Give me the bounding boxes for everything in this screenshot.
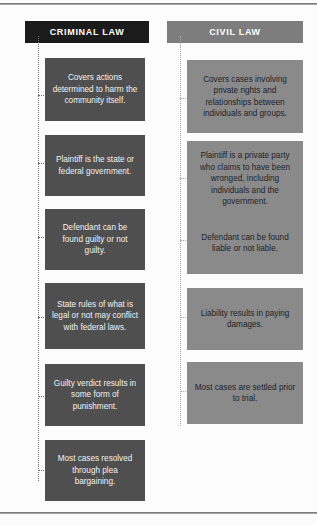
bottom-divider-rule [0, 512, 317, 514]
criminal-item-6: Most cases resolved through plea bargain… [45, 440, 145, 501]
connector-spine-criminal [38, 36, 39, 481]
civil-item-4: Liability results in paying damages. [187, 288, 303, 350]
criminal-item-5-text: Guilty verdict results in some form of p… [52, 378, 138, 413]
criminal-item-3: Defendant can be found guilty or not gui… [45, 209, 145, 270]
civil-item-5-text: Most cases are settled prior to trial. [194, 382, 296, 405]
criminal-item-4: State rules of what is legal or not may … [45, 283, 145, 349]
column-criminal-law: CRIMINAL LAW Covers actions determined t… [6, 6, 153, 511]
civil-item-5: Most cases are settled prior to trial. [187, 362, 303, 424]
infographic-page: CRIMINAL LAW Covers actions determined t… [0, 0, 317, 525]
civil-item-1: Covers cases involving private rights an… [187, 60, 303, 133]
civil-item-2: Plaintiff is a private party who claims … [187, 141, 303, 217]
criminal-item-2-text: Plaintiff is the state or federal govern… [52, 154, 138, 177]
civil-item-1-text: Covers cases involving private rights an… [194, 74, 296, 120]
top-divider-rule [0, 3, 317, 5]
criminal-item-5: Guilty verdict results in some form of p… [45, 364, 145, 426]
column-header-criminal-law: CRIMINAL LAW [25, 21, 149, 43]
civil-item-3-text: Defendant can be found liable or not lia… [194, 232, 296, 255]
criminal-item-1-text: Covers actions determined to harm the co… [52, 72, 138, 107]
column-header-civil-law: CIVIL LAW [167, 21, 303, 43]
column-civil-law: CIVIL LAW Covers cases involving private… [163, 6, 310, 511]
criminal-item-6-text: Most cases resolved through plea bargain… [52, 453, 138, 488]
civil-item-3: Defendant can be found liable or not lia… [187, 212, 303, 274]
civil-item-2-text: Plaintiff is a private party who claims … [194, 150, 296, 208]
civil-item-4-text: Liability results in paying damages. [194, 308, 296, 331]
criminal-item-1: Covers actions determined to harm the co… [45, 58, 145, 121]
criminal-item-2: Plaintiff is the state or federal govern… [45, 135, 145, 196]
connector-spine-civil [180, 36, 181, 426]
criminal-item-4-text: State rules of what is legal or not may … [52, 299, 138, 334]
criminal-item-3-text: Defendant can be found guilty or not gui… [52, 222, 138, 257]
chart-canvas: CRIMINAL LAW Covers actions determined t… [0, 6, 317, 511]
